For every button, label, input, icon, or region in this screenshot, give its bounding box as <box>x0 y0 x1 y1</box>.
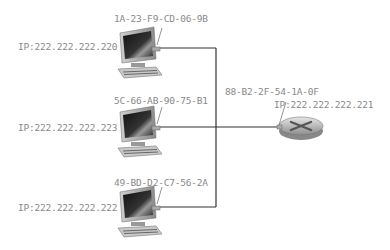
host-1-ip-label: IP:222.222.222.220 <box>18 41 117 52</box>
host-1-mac-label: 1A-23-F9-CD-06-9B <box>114 13 208 24</box>
host-computer-2[interactable] <box>118 106 162 157</box>
host-2-ip-label: IP:222.222.222.223 <box>18 122 117 133</box>
host-computer-1[interactable] <box>118 27 162 78</box>
host-3-ip-label: IP:222.222.222.222 <box>18 202 117 213</box>
router-mac-label: 88-B2-2F-54-1A-0F <box>225 86 319 97</box>
host-3-mac-label: 49-BD-D2-C7-56-2A <box>114 177 208 188</box>
router-ip-label: IP:222.222.222.221 <box>274 99 373 110</box>
host-computer-3[interactable] <box>118 186 162 237</box>
host-2-mac-label: 5C-66-AB-90-75-B1 <box>114 95 208 106</box>
